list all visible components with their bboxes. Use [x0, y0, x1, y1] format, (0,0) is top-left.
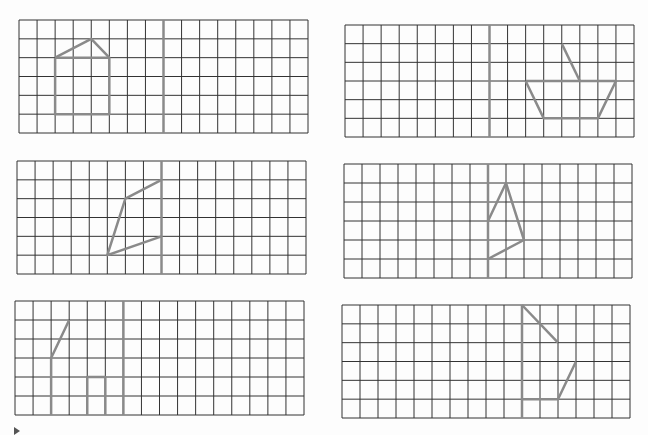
half-shape [55, 58, 109, 114]
grid-5 [14, 300, 305, 416]
half-shape [55, 39, 109, 58]
worksheet-page [0, 0, 648, 435]
grid-6 [341, 304, 631, 419]
page-corner-marker [14, 427, 20, 435]
grid-4 [343, 163, 633, 279]
grid-2 [344, 24, 635, 138]
half-shape [51, 320, 69, 415]
grid-1 [18, 19, 309, 134]
grid-3 [16, 160, 307, 275]
